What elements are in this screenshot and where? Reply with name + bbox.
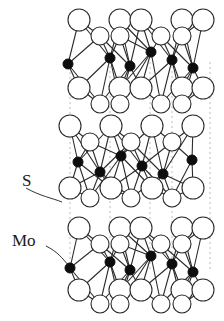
atom-molybdenum (167, 259, 177, 269)
atom-sulfur (81, 189, 99, 207)
atom-sulfur (192, 77, 214, 99)
atom-sulfur (111, 295, 129, 313)
atom-sulfur (182, 115, 204, 137)
atom-sulfur (173, 95, 191, 113)
atom-sulfur (152, 235, 170, 253)
atom-molybdenum (63, 59, 73, 69)
atom-molybdenum (137, 161, 147, 171)
atom-sulfur (130, 9, 152, 31)
atom-sulfur (163, 133, 181, 151)
atom-molybdenum (95, 167, 105, 177)
atom-sulfur (81, 133, 99, 151)
atom-sulfur (68, 9, 90, 31)
atom-molybdenum (116, 151, 126, 161)
atom-sulfur (111, 95, 129, 113)
atom-molybdenum (188, 267, 198, 277)
atom-molybdenum (167, 55, 177, 65)
atom-sulfur (59, 177, 81, 199)
atom-sulfur (100, 177, 122, 199)
atom-sulfur (91, 235, 109, 253)
atom-sulfur (163, 189, 181, 207)
atom-sulfur (173, 235, 191, 253)
atom-sulfur (173, 295, 191, 313)
atom-sulfur (59, 115, 81, 137)
atom-sulfur (91, 95, 109, 113)
mo-label: Mo (12, 231, 36, 250)
atom-sulfur (182, 177, 204, 199)
atom-sulfur (192, 9, 214, 31)
atom-molybdenum (125, 265, 135, 275)
atom-molybdenum (105, 257, 115, 267)
atom-sulfur (192, 279, 214, 301)
atom-molybdenum (188, 63, 198, 73)
atom-sulfur (130, 279, 152, 301)
atom-sulfur (91, 295, 109, 313)
atom-sulfur (68, 217, 90, 239)
atom-sulfur (192, 217, 214, 239)
atom-molybdenum (187, 155, 197, 165)
atom-sulfur (141, 115, 163, 137)
atom-sulfur (68, 77, 90, 99)
atom-sulfur (141, 177, 163, 199)
atom-sulfur (152, 27, 170, 45)
atom-sulfur (173, 27, 191, 45)
sulfur-top-front-row-group (81, 133, 181, 151)
atom-molybdenum (146, 251, 156, 261)
atom-sulfur (130, 217, 152, 239)
atom-molybdenum (65, 263, 75, 273)
atom-sulfur (152, 95, 170, 113)
atom-sulfur (130, 77, 152, 99)
atom-molybdenum (158, 169, 168, 179)
atom-sulfur (122, 189, 140, 207)
sulfur-bottom-front-row-group (81, 189, 181, 207)
mos2-crystal-structure-diagram: SMo (0, 0, 224, 321)
s-label: S (22, 171, 31, 190)
atom-sulfur (68, 279, 90, 301)
atom-molybdenum (146, 47, 156, 57)
atom-sulfur (152, 295, 170, 313)
atom-sulfur (100, 115, 122, 137)
atom-molybdenum (125, 61, 135, 71)
atom-molybdenum (105, 53, 115, 63)
atom-sulfur (111, 27, 129, 45)
atom-sulfur (111, 235, 129, 253)
atom-sulfur (122, 133, 140, 151)
atom-molybdenum (73, 157, 83, 167)
atom-sulfur (91, 27, 109, 45)
